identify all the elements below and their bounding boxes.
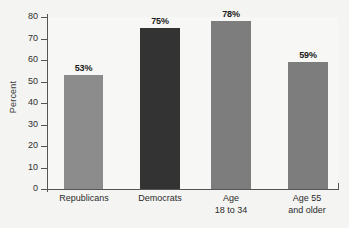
- y-tick-label-30: 30: [14, 119, 38, 129]
- x-tick-label-age-55-and-older: Age 55 and older: [272, 193, 342, 216]
- y-tick-label-0: 0: [14, 183, 38, 193]
- y-tick-label-60: 60: [14, 54, 38, 64]
- x-tick-label-republicans: Republicans: [49, 193, 119, 205]
- x-axis-line: [47, 189, 339, 190]
- bar-value-age-55-and-older: 59%: [299, 50, 317, 60]
- bar-value-democrats: 75%: [151, 16, 169, 26]
- plot-area: 53% 75% 78% 59%: [47, 17, 338, 189]
- y-tick-label-10: 10: [14, 162, 38, 172]
- bar-chart: Percent 80 70 60 50 40 30 20 10 0 53% 75…: [0, 0, 349, 228]
- bar-republicans: 53%: [64, 75, 103, 189]
- y-tick-label-40: 40: [14, 97, 38, 107]
- y-tick-label-20: 20: [14, 140, 38, 150]
- y-tick-label-50: 50: [14, 76, 38, 86]
- bar-democrats: 75%: [140, 28, 180, 189]
- y-tick-label-70: 70: [14, 33, 38, 43]
- bar-value-republicans: 53%: [75, 63, 93, 73]
- y-tick-label-80: 80: [14, 11, 38, 21]
- x-axis-end-tick: [338, 183, 339, 190]
- x-tick-label-democrats: Democrats: [125, 193, 195, 205]
- bar-value-age-18-to-34: 78%: [222, 9, 240, 19]
- y-axis-line: [47, 14, 48, 192]
- x-tick-label-age-18-to-34: Age 18 to 34: [196, 193, 266, 216]
- bar-age-55-and-older: 59%: [288, 62, 328, 189]
- bar-age-18-to-34: 78%: [211, 21, 251, 189]
